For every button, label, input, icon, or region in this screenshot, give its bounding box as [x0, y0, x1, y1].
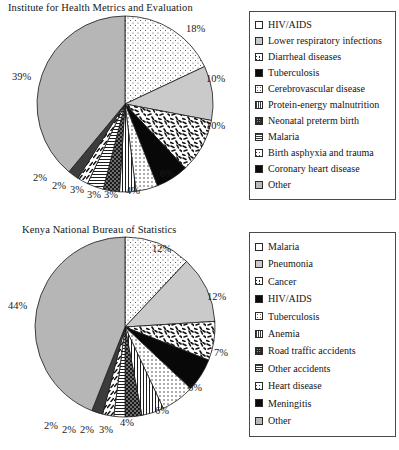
legend-item[interactable]: Malaria	[255, 129, 389, 145]
legend-item-label: Protein-energy malnutrition	[268, 97, 379, 113]
pie-chart-bottom	[2, 234, 247, 438]
legend-item-label: Anemia	[268, 325, 300, 342]
legend-item[interactable]: Malaria	[255, 238, 389, 255]
legend-item-label: Other	[268, 177, 291, 193]
legend-item[interactable]: Meningitis	[255, 395, 389, 412]
legend-bottom: MalariaPneumoniaCancerHIV/AIDSTuberculos…	[249, 232, 396, 437]
legend-item-label: Other accidents	[268, 360, 330, 377]
legend-item-label: Coronary heart disease	[268, 161, 360, 177]
legend-item-label: Neonatal preterm birth	[268, 113, 359, 129]
legend-item[interactable]: HIV/AIDS	[255, 290, 389, 307]
pie-percentage-label: 2%	[33, 172, 47, 183]
legend-item-label: Meningitis	[268, 395, 311, 412]
pie-chart-bottom-svg	[2, 234, 247, 434]
legend-swatch-diag-dash-icon	[255, 382, 263, 390]
pie-percentage-label: 2%	[62, 424, 76, 435]
legend-swatch-confetti-icon	[255, 53, 263, 61]
legend-swatch-sparse-dots-icon	[255, 85, 263, 93]
pie-percentage-label: 39%	[12, 71, 31, 82]
legend-item-label: Malaria	[268, 238, 299, 255]
legend-item[interactable]: Cancer	[255, 273, 389, 290]
legend-item-label: HIV/AIDS	[268, 17, 312, 33]
legend-item[interactable]: Road traffic accidents	[255, 342, 389, 359]
legend-item[interactable]: Birth asphyxia and trauma	[255, 145, 389, 161]
pie-percentage-label: 12%	[207, 291, 226, 302]
legend-item[interactable]: Anemia	[255, 325, 389, 342]
pie-percentage-label: 2%	[80, 424, 94, 435]
legend-item-label: Tuberculosis	[268, 308, 319, 325]
legend-item-label: Heart disease	[268, 377, 322, 394]
legend-item[interactable]: Other	[255, 412, 389, 429]
legend-swatch-vlines-icon	[255, 101, 263, 109]
legend-item[interactable]: Coronary heart disease	[255, 161, 389, 177]
legend-top: HIV/AIDSLower respiratory infectionsDiar…	[249, 11, 396, 200]
pie-percentage-label: 6%	[155, 405, 169, 416]
legend-item[interactable]: Neonatal preterm birth	[255, 113, 389, 129]
pie-percentage-label: 4%	[126, 185, 140, 196]
legend-item-label: Cerebrovascular disease	[268, 81, 365, 97]
legend-item[interactable]: Tuberculosis	[255, 308, 389, 325]
legend-swatch-black-icon	[255, 69, 263, 77]
legend-item[interactable]: Lower respiratory infections	[255, 33, 389, 49]
pie-percentage-label: 6%	[188, 382, 202, 393]
pie-percentage-label: 18%	[186, 23, 205, 34]
legend-swatch-dark-dots-icon	[255, 117, 263, 125]
legend-item-label: Tuberculosis	[268, 65, 319, 81]
legend-swatch-gray-icon	[255, 417, 263, 425]
legend-swatch-dots-fine-icon	[255, 243, 263, 251]
pie-percentage-label: 3%	[99, 424, 113, 435]
legend-swatch-dark-dots-icon	[255, 347, 263, 355]
pie-percentage-label: 3%	[87, 189, 101, 200]
legend-swatch-black-icon	[255, 295, 263, 303]
legend-swatch-sparse-dots-icon	[255, 312, 263, 320]
legend-item[interactable]: Pneumonia	[255, 255, 389, 272]
legend-item-label: Other	[268, 412, 291, 429]
legend-item[interactable]: HIV/AIDS	[255, 17, 389, 33]
legend-swatch-diag-dash-icon	[255, 149, 263, 157]
pie-percentage-label: 7%	[214, 347, 228, 358]
legend-item-label: HIV/AIDS	[268, 290, 312, 307]
legend-item-label: Lower respiratory infections	[268, 33, 382, 49]
pie-percentage-label: 12%	[152, 243, 171, 254]
pie-slices-top	[37, 16, 213, 192]
legend-swatch-hlines-icon	[255, 364, 263, 372]
legend-swatch-dots-fine-icon	[255, 21, 263, 29]
legend-item[interactable]: Other	[255, 177, 389, 193]
legend-item[interactable]: Tuberculosis	[255, 65, 389, 81]
legend-item-label: Malaria	[268, 129, 299, 145]
legend-swatch-gray-icon	[255, 181, 263, 189]
legend-item[interactable]: Other accidents	[255, 360, 389, 377]
pie-percentage-label: 4%	[120, 417, 134, 428]
legend-item[interactable]: Heart disease	[255, 377, 389, 394]
legend-item-label: Road traffic accidents	[268, 342, 356, 359]
pie-percentage-label: 3%	[70, 184, 84, 195]
pie-chart-top-svg	[2, 12, 247, 197]
pie-percentage-label: 44%	[8, 300, 27, 311]
pie-percentage-label: 6%	[160, 168, 174, 179]
pie-percentage-label: 10%	[206, 73, 225, 84]
legend-swatch-vlines-icon	[255, 330, 263, 338]
legend-item-label: Diarrheal diseases	[268, 49, 341, 65]
pie-percentage-label: 2%	[52, 180, 66, 191]
legend-swatch-hlines-icon	[255, 133, 263, 141]
legend-item-label: Pneumonia	[268, 255, 313, 272]
legend-item[interactable]: Diarrheal diseases	[255, 49, 389, 65]
pie-percentage-label: 10%	[206, 120, 225, 131]
legend-swatch-light-gray-icon	[255, 260, 263, 268]
legend-swatch-dark-solid-icon	[255, 165, 263, 173]
legend-swatch-dark-solid-icon	[255, 399, 263, 407]
pie-percentage-label: 2%	[44, 420, 58, 431]
legend-item[interactable]: Protein-energy malnutrition	[255, 97, 389, 113]
legend-item[interactable]: Cerebrovascular disease	[255, 81, 389, 97]
legend-item-label: Birth asphyxia and trauma	[268, 145, 374, 161]
pie-percentage-label: 3%	[104, 189, 118, 200]
legend-item-label: Cancer	[268, 273, 296, 290]
legend-swatch-light-gray-icon	[255, 37, 263, 45]
legend-swatch-confetti-icon	[255, 277, 263, 285]
